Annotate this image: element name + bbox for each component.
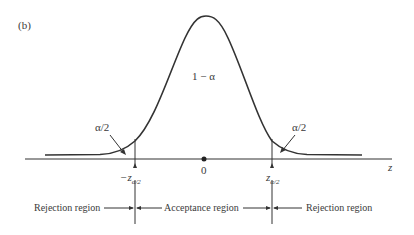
right-tail-label: α/2 xyxy=(292,122,306,133)
accept-right-arrowhead xyxy=(266,206,271,210)
left-tail-label: α/2 xyxy=(95,122,109,133)
right-rejection-region-label: Rejection region xyxy=(306,203,372,213)
acceptance-region-label: Acceptance region xyxy=(164,203,239,213)
left-critical-sub: α/2 xyxy=(132,178,141,186)
panel-label: (b) xyxy=(18,20,31,31)
origin-dot xyxy=(202,157,207,162)
left-critical-tick xyxy=(133,163,137,168)
left-critical-prefix: −z xyxy=(120,171,132,183)
right-critical-sub: α/2 xyxy=(270,178,279,186)
bell-curve xyxy=(45,16,362,155)
right-critical-tick xyxy=(270,163,274,168)
right-critical-label: zα/2 xyxy=(266,172,279,186)
left-region-arrowhead xyxy=(129,206,134,210)
origin-label: 0 xyxy=(201,165,207,176)
left-tail-arrow xyxy=(110,135,124,153)
center-area-label: 1 − α xyxy=(192,71,215,82)
axis-variable-label: z xyxy=(388,162,392,173)
left-critical-label: −zα/2 xyxy=(120,172,141,186)
left-rejection-region-label: Rejection region xyxy=(34,203,100,213)
normal-distribution-diagram xyxy=(0,0,414,235)
